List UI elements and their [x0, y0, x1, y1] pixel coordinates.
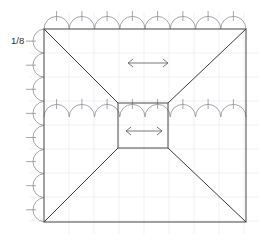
roof-plan-diagram: 1/8: [0, 0, 261, 240]
top-gutter-scallops: [44, 11, 246, 29]
diagonal-top-right: [168, 29, 246, 103]
diagonal-top-left: [44, 29, 118, 103]
diagonal-bottom-left: [44, 148, 118, 222]
hip-diagonals: [44, 29, 246, 222]
slope-label: 1/8: [11, 35, 24, 46]
upper-flow-arrow: [128, 59, 168, 67]
diagram-canvas: 1/8: [0, 0, 261, 240]
left-gutter-scallops: [26, 29, 44, 222]
mid-gutter-scallops: [44, 99, 246, 117]
diagonal-bottom-right: [168, 148, 246, 222]
